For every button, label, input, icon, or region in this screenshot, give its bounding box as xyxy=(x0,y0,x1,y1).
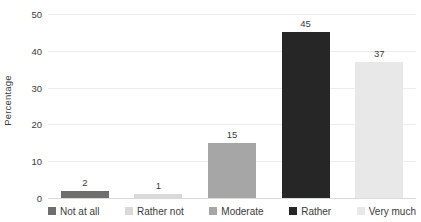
bar-value-label-not-at-all: 2 xyxy=(61,177,109,188)
bar-very-much[interactable] xyxy=(355,62,403,198)
bar-value-label-rather: 45 xyxy=(282,18,330,29)
legend-item-rather-not[interactable]: Rather not xyxy=(125,206,184,217)
y-axis-tick-50: 50 xyxy=(16,9,42,20)
y-axis-tick-30: 30 xyxy=(16,82,42,93)
legend-swatch-icon xyxy=(289,207,297,215)
legend-swatch-icon xyxy=(48,207,56,215)
bars-layer xyxy=(48,14,416,198)
axis-baseline xyxy=(48,198,416,199)
legend: Not at allRather notModerateRatherVery m… xyxy=(48,203,416,219)
legend-item-rather[interactable]: Rather xyxy=(289,206,331,217)
y-axis-title: Percentage xyxy=(0,0,14,200)
legend-item-label: Moderate xyxy=(221,206,263,217)
legend-swatch-icon xyxy=(125,207,133,215)
y-axis-tick-0: 0 xyxy=(16,193,42,204)
legend-item-label: Very much xyxy=(369,206,416,217)
y-axis-tick-20: 20 xyxy=(16,119,42,130)
y-axis-tick-40: 40 xyxy=(16,45,42,56)
legend-item-label: Rather not xyxy=(137,206,184,217)
legend-item-not-at-all[interactable]: Not at all xyxy=(48,206,99,217)
legend-item-moderate[interactable]: Moderate xyxy=(209,206,263,217)
bar-moderate[interactable] xyxy=(208,143,256,198)
bar-value-label-rather-not: 1 xyxy=(134,180,182,191)
legend-swatch-icon xyxy=(357,207,365,215)
bar-value-label-very-much: 37 xyxy=(355,48,403,59)
bar-chart: Percentage 01020304050 21154537 Not at a… xyxy=(0,0,421,222)
y-axis-title-text: Percentage xyxy=(2,75,13,126)
legend-item-label: Rather xyxy=(301,206,331,217)
bar-rather-not[interactable] xyxy=(134,194,182,198)
legend-item-label: Not at all xyxy=(60,206,99,217)
legend-swatch-icon xyxy=(209,207,217,215)
bar-value-label-moderate: 15 xyxy=(208,129,256,140)
bar-rather[interactable] xyxy=(282,32,330,198)
bar-not-at-all[interactable] xyxy=(61,191,109,198)
y-axis-tick-10: 10 xyxy=(16,156,42,167)
legend-item-very-much[interactable]: Very much xyxy=(357,206,416,217)
plot-area: 21154537 xyxy=(48,14,416,198)
